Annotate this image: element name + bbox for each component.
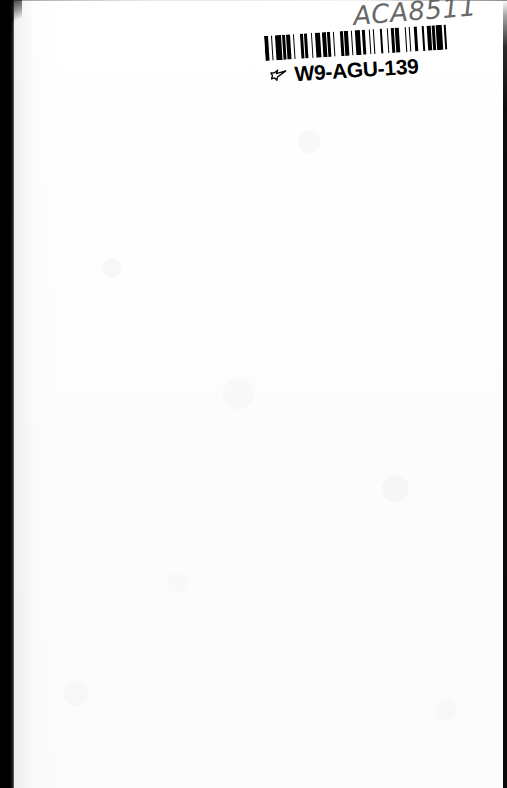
barcode-bar — [315, 32, 322, 57]
barcode-bar — [414, 26, 418, 51]
barcode-bar — [327, 32, 331, 57]
barcode-bar — [444, 25, 447, 50]
barcode-bar — [436, 25, 443, 50]
barcode-bar — [422, 26, 425, 51]
barcode-bar — [311, 33, 314, 58]
binding-gutter-shading — [14, 0, 58, 788]
scan-edge-left — [0, 0, 14, 788]
barcode-bar — [373, 29, 376, 54]
scanned-page: ACA8511 W9-AGU-139 — [0, 0, 507, 788]
barcode-bar — [355, 30, 362, 55]
barcode-bar — [386, 28, 389, 53]
scan-edge-right — [503, 0, 507, 788]
barcode-bar — [395, 28, 401, 53]
barcode-bar — [362, 30, 366, 55]
paper-surface — [0, 0, 507, 788]
barcode-bar — [304, 33, 308, 58]
barcode-bar — [408, 27, 411, 52]
barcode-bar — [344, 31, 350, 56]
barcode-bar — [379, 29, 383, 54]
barcode-bar — [333, 32, 336, 57]
barcode-bar — [293, 34, 296, 59]
barcode-bar — [286, 34, 292, 59]
scan-edge-left-feather — [0, 0, 22, 30]
barcode-bar — [351, 30, 354, 55]
barcode-bar — [271, 35, 274, 60]
pointing-hand-icon — [268, 66, 289, 86]
barcode-bar — [368, 29, 371, 54]
barcode-bar — [275, 35, 282, 60]
barcode-bar — [264, 36, 270, 61]
barcode-bar — [404, 27, 407, 52]
